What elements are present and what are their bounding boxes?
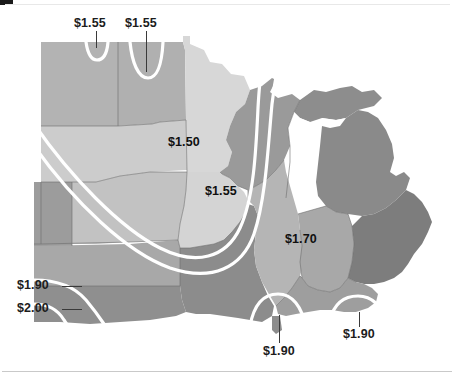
price-label-southwest-190: $1.90 <box>17 278 49 292</box>
price-label-north-east: $1.55 <box>125 16 157 30</box>
price-label-minnesota: $1.50 <box>168 135 200 149</box>
leader-line-a8 <box>279 315 280 343</box>
bottom-divider-rule <box>2 371 452 372</box>
price-label-southeast-190: $1.90 <box>343 327 375 341</box>
leader-line-a2 <box>146 31 147 72</box>
leader-line-a9 <box>359 312 360 327</box>
price-label-south-center-190: $1.90 <box>263 344 295 358</box>
region-colorado-dark-wedge <box>34 182 72 246</box>
price-label-southwest-200: $2.00 <box>17 301 49 315</box>
region-indiana <box>298 206 354 292</box>
leader-line-a6 <box>62 286 82 287</box>
leader-line-a7 <box>62 309 82 310</box>
price-label-illinois-indiana: $1.70 <box>285 232 317 246</box>
price-label-iowa-wisconsin: $1.55 <box>205 184 237 198</box>
price-contour-map-figure: $1.55 $1.55 $1.50 $1.55 $1.70 $1.90 $2.0… <box>0 0 455 379</box>
region-north-dakota <box>118 42 186 126</box>
leader-line-a1 <box>96 31 97 48</box>
price-label-north-west: $1.55 <box>74 16 106 30</box>
region-missouri-bootheel <box>272 316 282 334</box>
region-oklahoma <box>34 286 186 324</box>
